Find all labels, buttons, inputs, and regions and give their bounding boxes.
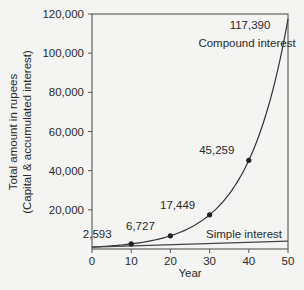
y-tick-label: 80,000 [49,86,84,98]
series-lines [92,19,288,247]
x-tick-label: 20 [164,255,177,267]
data-point-value: 117,390 [230,19,271,31]
y-tick-label: 120,000 [42,8,84,20]
data-point-marker [129,241,134,246]
compound-interest-label: Compound interest [198,37,296,49]
x-tick-label: 40 [242,255,255,267]
point-labels: 2,5936,72717,44945,259117,390 [83,19,271,240]
simple-interest-line [92,241,288,247]
x-axis-title: Year [178,267,201,279]
data-point-marker [207,212,212,217]
y-axis-subtitle: (Capital & accumulated interest) [21,50,33,214]
x-tick-label: 10 [125,255,138,267]
x-axis-ticks: 01020304050 [89,249,295,267]
y-axis-title: Total amount in rupees [7,74,19,191]
x-tick-label: 30 [203,255,216,267]
data-point-value: 45,259 [199,144,234,156]
x-tick-label: 0 [89,255,95,267]
data-point-value: 6,727 [126,220,155,232]
data-point-value: 2,593 [83,228,112,240]
compound-vs-simple-interest-chart: 20,00040,00060,00080,000100,000120,000 0… [0,0,304,290]
x-tick-label: 50 [282,255,295,267]
plot-border [92,14,288,249]
data-point-value: 17,449 [160,199,195,211]
plot-frame [92,14,288,249]
y-axis-ticks: 20,00040,00060,00080,000100,000120,000 [42,8,92,216]
y-tick-label: 20,000 [49,204,84,216]
compound-interest-curve [92,19,288,247]
y-tick-label: 40,000 [49,165,84,177]
data-point-marker [246,158,251,163]
simple-interest-label: Simple interest [206,228,283,240]
y-tick-label: 100,000 [42,47,84,59]
y-tick-label: 60,000 [49,126,84,138]
data-point-marker [168,233,173,238]
